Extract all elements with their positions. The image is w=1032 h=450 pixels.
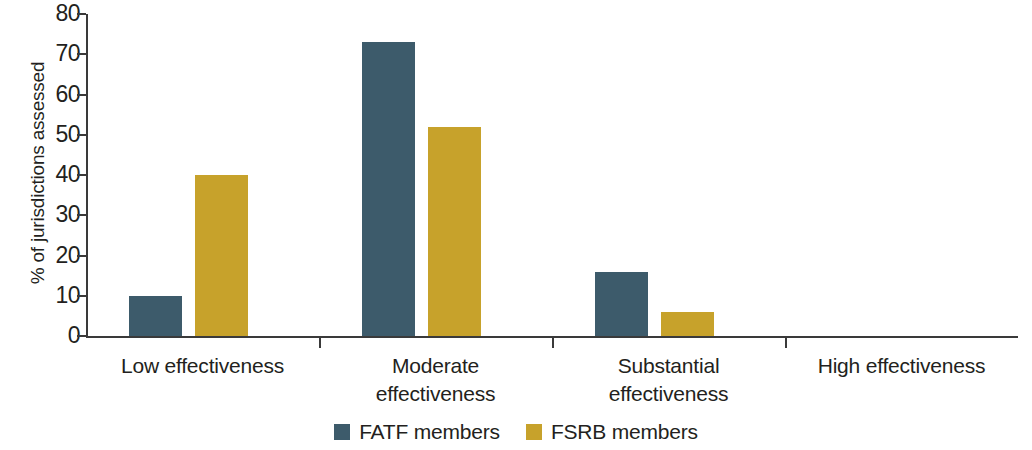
y-axis-tick <box>77 214 86 216</box>
y-axis-tick-label: 0 <box>34 324 80 347</box>
x-axis-tick <box>785 337 787 348</box>
y-axis-tick <box>77 134 86 136</box>
legend-swatch-icon <box>526 424 542 440</box>
y-axis-tick-label: 30 <box>34 203 80 226</box>
y-axis-tick <box>77 13 86 15</box>
bar-chart: % of jurisdictions assessed 010203040506… <box>0 0 1032 450</box>
plot-area <box>86 14 1018 336</box>
bar <box>428 127 481 336</box>
chart-legend: FATF membersFSRB members <box>0 420 1032 444</box>
bar <box>595 272 648 336</box>
legend-swatch-icon <box>334 424 350 440</box>
y-axis-tick-label: 40 <box>34 163 80 186</box>
x-axis-category-label: High effectiveness <box>785 352 1018 380</box>
legend-item-fsrb: FSRB members <box>526 420 698 444</box>
y-axis-tick-labels: 01020304050607080 <box>20 0 80 340</box>
y-axis-tick-label: 60 <box>34 83 80 106</box>
category-label-line: Moderate <box>319 352 552 380</box>
bar <box>129 296 182 336</box>
category-label-line: Substantial <box>552 352 785 380</box>
y-axis-tick-label: 50 <box>34 123 80 146</box>
category-label-line: High effectiveness <box>785 352 1018 380</box>
legend-label: FATF members <box>359 420 500 444</box>
category-label-line: effectiveness <box>319 380 552 408</box>
legend-label: FSRB members <box>551 420 698 444</box>
category-label-line: Low effectiveness <box>86 352 319 380</box>
y-axis-tick-label: 70 <box>34 42 80 65</box>
y-axis-tick-label: 20 <box>34 244 80 267</box>
y-axis-tick <box>77 53 86 55</box>
y-axis-tick <box>77 335 86 337</box>
legend-item-fatf: FATF members <box>334 420 500 444</box>
y-axis-tick <box>77 295 86 297</box>
bar <box>195 175 248 336</box>
x-axis-category-label: Low effectiveness <box>86 352 319 380</box>
x-axis-tick <box>552 337 554 348</box>
bar <box>661 312 714 336</box>
x-axis-category-label: Moderateeffectiveness <box>319 352 552 408</box>
x-axis-category-label: Substantialeffectiveness <box>552 352 785 408</box>
y-axis-tick-label: 80 <box>34 2 80 25</box>
y-axis-tick <box>77 255 86 257</box>
y-axis-tick <box>77 174 86 176</box>
x-axis-tick <box>319 337 321 348</box>
y-axis-tick-label: 10 <box>34 284 80 307</box>
bar <box>362 42 415 336</box>
category-label-line: effectiveness <box>552 380 785 408</box>
y-axis-tick <box>77 94 86 96</box>
